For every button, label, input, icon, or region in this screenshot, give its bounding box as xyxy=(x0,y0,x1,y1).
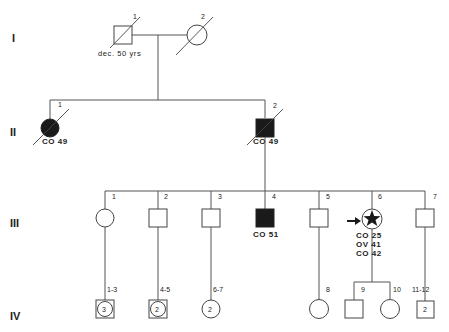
individual-number: 11-12 xyxy=(412,286,429,293)
individual-number: 1 xyxy=(112,193,116,200)
sibling-count: 2 xyxy=(208,306,212,313)
individual-IV-8[interactable]: 8 xyxy=(310,286,331,319)
individual-number: 1 xyxy=(58,101,62,108)
individual-IV-6-7[interactable]: 2 6-7 xyxy=(202,286,223,318)
cancer-label: CO 49 xyxy=(42,137,68,146)
male-symbol xyxy=(345,300,363,318)
generation-label-II: II xyxy=(10,126,16,138)
individual-number: 9 xyxy=(361,286,365,293)
individual-III-6-proband[interactable]: 6 CO 25 OV 41 CO 42 xyxy=(347,193,382,282)
individual-IV-9[interactable]: 9 xyxy=(345,286,365,318)
generation-label-III: III xyxy=(10,217,19,229)
cancer-label: CO 51 xyxy=(253,230,279,239)
individual-number: 8 xyxy=(326,286,330,293)
individual-number: 3 xyxy=(218,193,222,200)
cancer-label: CO 25 xyxy=(356,231,382,240)
female-symbol xyxy=(381,300,400,319)
cancer-label: CO 42 xyxy=(356,249,382,258)
female-symbol xyxy=(96,209,114,227)
individual-number: 6 xyxy=(378,193,382,200)
individual-III-3[interactable]: 3 xyxy=(202,193,222,227)
individual-number: 5 xyxy=(326,193,330,200)
male-affected-symbol xyxy=(256,119,274,137)
male-symbol xyxy=(202,209,220,227)
generation-label-IV: IV xyxy=(10,310,21,322)
individual-number: 4-5 xyxy=(160,286,170,293)
individual-number: 2 xyxy=(273,102,277,109)
individual-number: 2 xyxy=(201,13,205,20)
individual-II-1[interactable]: 1 CO 49 xyxy=(33,101,69,146)
individual-IV-11-12[interactable]: 2 11-12 xyxy=(412,286,434,318)
cancer-label: OV 41 xyxy=(356,240,381,249)
male-symbol xyxy=(149,209,167,227)
generation-label-I: I xyxy=(12,32,15,44)
individual-number: 2 xyxy=(164,193,168,200)
male-affected-symbol xyxy=(256,209,274,227)
pedigree-chart: I II III IV 1 dec. 50 yrs 2 1 CO 49 2 CO… xyxy=(0,0,449,332)
individual-number: 4 xyxy=(272,193,276,200)
individual-IV-1-3[interactable]: 3 1-3 xyxy=(96,286,117,318)
sibling-count: 3 xyxy=(102,306,106,313)
individual-number: 1 xyxy=(133,13,137,20)
male-symbol xyxy=(310,209,328,227)
male-symbol xyxy=(416,209,434,227)
individual-III-7[interactable]: 7 xyxy=(416,193,437,227)
female-symbol xyxy=(187,25,207,45)
cancer-label: CO 49 xyxy=(253,137,279,146)
individual-number: 7 xyxy=(433,193,437,200)
proband-arrow-icon xyxy=(347,217,361,225)
individual-III-5[interactable]: 5 xyxy=(310,193,330,227)
individual-number: 10 xyxy=(393,286,401,293)
individual-III-4[interactable]: 4 CO 51 xyxy=(253,193,279,239)
individual-number: 6-7 xyxy=(213,286,223,293)
individual-III-1[interactable]: 1 xyxy=(96,193,116,227)
individual-note: dec. 50 yrs xyxy=(98,49,141,58)
individual-I-2[interactable]: 2 xyxy=(176,13,213,55)
individual-IV-4-5[interactable]: 2 4-5 xyxy=(149,286,170,318)
sibling-count: 2 xyxy=(155,306,159,313)
individual-number: 1-3 xyxy=(107,286,117,293)
individual-IV-10[interactable]: 10 xyxy=(381,286,401,319)
female-symbol xyxy=(310,300,329,319)
sibling-count: 2 xyxy=(423,306,427,313)
